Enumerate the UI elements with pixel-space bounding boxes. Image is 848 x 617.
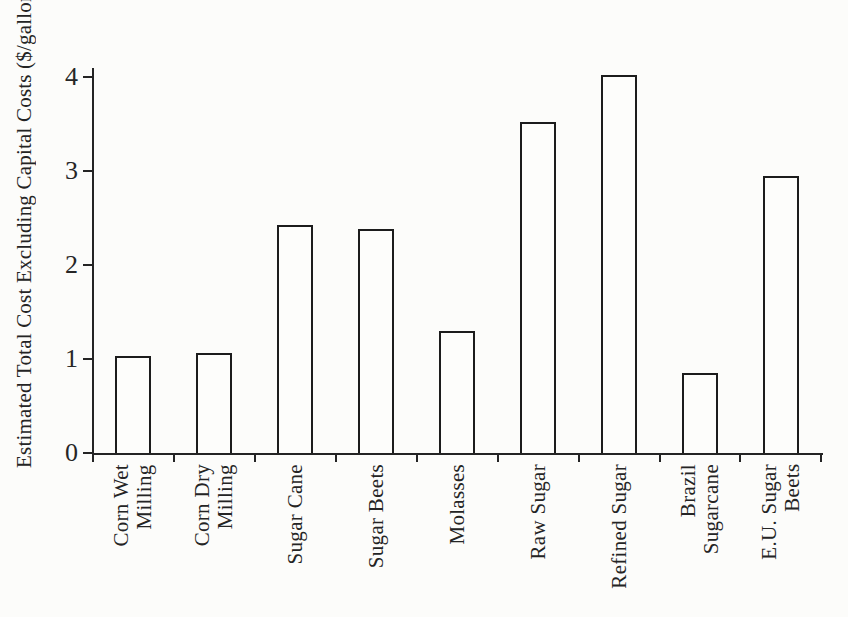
bar-sugar-beets xyxy=(358,229,394,453)
x-tick-8 xyxy=(739,455,741,462)
bar-refined-sugar xyxy=(601,75,637,453)
x-tick-0 xyxy=(92,455,94,462)
bar-corn-dry-milling xyxy=(196,353,232,453)
x-label-brazil-sugarcane: Brazil Sugarcane xyxy=(677,464,723,554)
x-axis-line xyxy=(92,453,823,455)
x-tick-9 xyxy=(820,455,822,462)
bar-molasses xyxy=(439,331,475,453)
x-label-sugar-cane: Sugar Cane xyxy=(284,464,307,564)
x-tick-6 xyxy=(578,455,580,462)
x-tick-5 xyxy=(497,455,499,462)
y-tick-label-3: 3 xyxy=(34,154,78,188)
y-tick-label-0: 0 xyxy=(34,436,78,470)
x-label-e-u-sugar-beets: E.U. Sugar Beets xyxy=(758,464,804,560)
bar-corn-wet-milling xyxy=(115,356,151,453)
bar-e-u-sugar-beets xyxy=(763,176,799,453)
x-label-corn-dry-milling: Corn Dry Milling xyxy=(191,464,237,546)
y-tick-label-4: 4 xyxy=(34,60,78,94)
x-label-sugar-beets: Sugar Beets xyxy=(365,464,388,568)
y-tick-label-2: 2 xyxy=(34,248,78,282)
y-tick-0 xyxy=(83,452,92,454)
y-tick-2 xyxy=(83,264,92,266)
x-tick-3 xyxy=(335,455,337,462)
x-tick-2 xyxy=(254,455,256,462)
y-tick-1 xyxy=(83,358,92,360)
y-axis-line xyxy=(92,68,94,455)
bar-chart: Estimated Total Cost Excluding Capital C… xyxy=(0,0,848,617)
x-label-refined-sugar: Refined Sugar xyxy=(608,464,631,589)
y-tick-4 xyxy=(83,76,92,78)
scanned-figure-page: Estimated Total Cost Excluding Capital C… xyxy=(0,0,848,617)
bar-sugar-cane xyxy=(277,225,313,453)
bar-brazil-sugarcane xyxy=(682,373,718,453)
x-label-raw-sugar: Raw Sugar xyxy=(527,464,550,559)
x-tick-4 xyxy=(416,455,418,462)
x-label-corn-wet-milling: Corn Wet Milling xyxy=(110,464,156,547)
x-tick-1 xyxy=(173,455,175,462)
x-label-molasses: Molasses xyxy=(446,464,469,545)
bar-raw-sugar xyxy=(520,122,556,453)
y-tick-3 xyxy=(83,170,92,172)
x-tick-7 xyxy=(659,455,661,462)
y-tick-label-1: 1 xyxy=(34,342,78,376)
